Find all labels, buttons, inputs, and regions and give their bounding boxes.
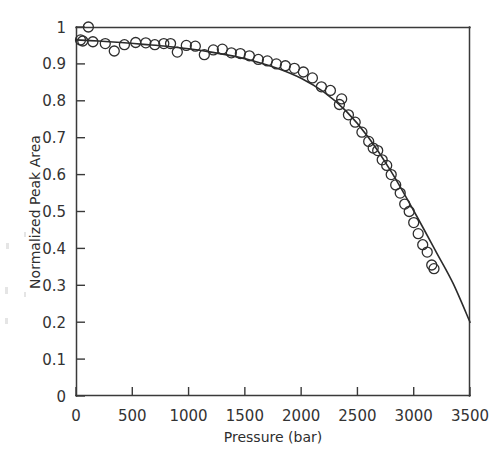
data-point: [109, 46, 119, 56]
x-tick-label: 2500: [338, 407, 376, 425]
y-tick-label: 0.9: [42, 55, 66, 73]
data-point: [409, 218, 419, 228]
x-axis-ticks: [76, 387, 470, 396]
y-axis-tick-labels: 00.10.20.30.40.50.60.70.80.91: [42, 19, 66, 406]
y-tick-label: 0.8: [42, 92, 66, 110]
data-point: [350, 117, 360, 127]
x-axis-tick-labels: 0500100015002000250030003500: [71, 407, 489, 425]
data-point: [100, 39, 110, 49]
data-point: [413, 229, 423, 239]
x-tick-label: 3500: [451, 407, 489, 425]
x-axis-title: Pressure (bar): [224, 429, 322, 445]
y-tick-label: 0.7: [42, 129, 66, 147]
data-point-markers: [76, 22, 439, 274]
x-tick-label: 1500: [226, 407, 264, 425]
y-axis-title: Normalized Peak Area: [27, 135, 43, 289]
data-point: [337, 94, 347, 104]
data-point: [119, 40, 129, 50]
data-point: [422, 247, 432, 257]
data-point: [131, 38, 141, 48]
y-tick-label: 0.4: [42, 240, 66, 258]
data-point: [404, 207, 414, 217]
y-tick-label: 0.1: [42, 351, 66, 369]
plot-axes: [76, 27, 470, 396]
x-tick-label: 0: [71, 407, 81, 425]
x-tick-label: 1000: [169, 407, 207, 425]
data-point: [298, 67, 308, 77]
data-point: [141, 38, 151, 48]
scatter-plot: 00.10.20.30.40.50.60.70.80.91 0500100015…: [0, 0, 492, 464]
y-tick-label: 0.3: [42, 277, 66, 295]
data-point: [418, 240, 428, 250]
y-axis-ticks: [76, 27, 85, 396]
x-tick-label: 500: [118, 407, 147, 425]
y-tick-label: 0.6: [42, 166, 66, 184]
data-point: [307, 73, 317, 83]
y-tick-label: 0: [56, 388, 66, 406]
y-tick-label: 1: [56, 19, 66, 37]
x-tick-label: 2000: [282, 407, 320, 425]
x-tick-label: 3000: [395, 407, 433, 425]
fitted-curve: [76, 40, 470, 322]
data-point: [325, 85, 335, 95]
data-point: [427, 260, 437, 270]
data-point: [172, 47, 182, 57]
data-point: [400, 199, 410, 209]
data-point: [429, 264, 439, 274]
y-tick-label: 0.2: [42, 314, 66, 332]
chart-figure: 00.10.20.30.40.50.60.70.80.91 0500100015…: [0, 0, 492, 464]
y-tick-label: 0.5: [42, 203, 66, 221]
data-point: [88, 37, 98, 47]
